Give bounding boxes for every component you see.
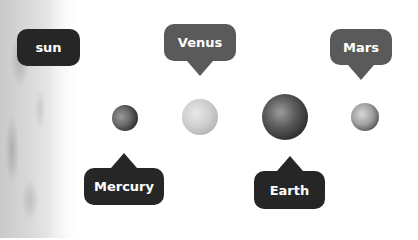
mars-planet-image[interactable] bbox=[351, 103, 379, 131]
mercury-planet-image[interactable] bbox=[112, 105, 138, 131]
sun-label-bubble[interactable]: sun bbox=[17, 29, 80, 66]
mars-label: Mars bbox=[343, 40, 379, 55]
earth-label-bubble[interactable]: Earth bbox=[254, 171, 325, 209]
mercury-label: Mercury bbox=[94, 179, 154, 194]
mercury-label-bubble[interactable]: Mercury bbox=[84, 168, 164, 205]
venus-label-bubble[interactable]: Venus bbox=[164, 24, 236, 61]
venus-planet-image[interactable] bbox=[182, 99, 218, 135]
earth-planet-image[interactable] bbox=[262, 94, 308, 140]
earth-label: Earth bbox=[270, 183, 310, 198]
venus-label: Venus bbox=[178, 35, 222, 50]
mars-label-bubble[interactable]: Mars bbox=[330, 29, 392, 65]
sun-label: sun bbox=[35, 40, 61, 55]
